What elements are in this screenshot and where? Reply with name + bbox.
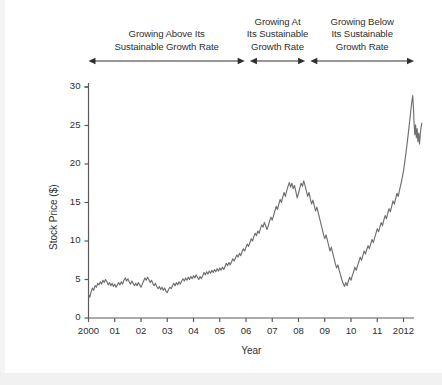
stock-price-line — [89, 95, 422, 297]
y-tick-label: 30 — [49, 80, 81, 91]
y-tick-label: 20 — [49, 157, 81, 168]
y-tick-label: 5 — [49, 273, 81, 284]
y-tick-label: 25 — [49, 119, 81, 130]
stock-price-figure: Growing Above ItsSustainable Growth Rate… — [0, 0, 442, 385]
x-axis-title: Year — [201, 345, 301, 356]
x-tick-label: 2012 — [384, 325, 424, 336]
y-axis-title: Stock Price ($) — [48, 184, 59, 250]
y-tick-label: 0 — [49, 311, 81, 322]
